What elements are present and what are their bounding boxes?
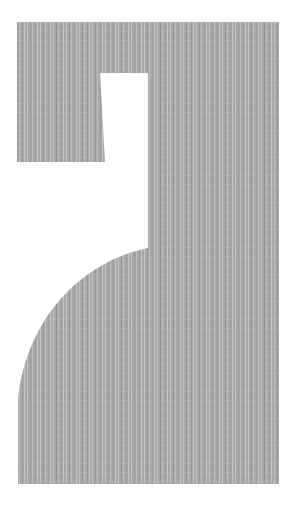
silhouette-shape	[17, 22, 279, 484]
shape-canvas	[0, 0, 297, 509]
silhouette-figure	[0, 0, 297, 509]
